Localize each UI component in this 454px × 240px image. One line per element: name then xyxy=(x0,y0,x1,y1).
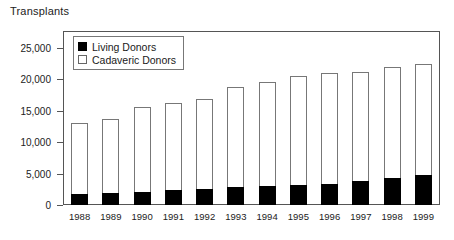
bar-segment-living xyxy=(415,175,432,205)
legend-label: Cadaveric Donors xyxy=(92,54,176,66)
x-tick-label: 1989 xyxy=(100,211,121,222)
bar-group xyxy=(102,119,119,205)
bar-group xyxy=(196,99,213,205)
y-tick-label: 25,000 xyxy=(20,42,51,53)
legend-label: Living Donors xyxy=(92,41,156,53)
bar-group xyxy=(415,64,432,205)
legend-item: Living Donors xyxy=(78,40,176,53)
x-tick-label: 1996 xyxy=(319,211,340,222)
bar-segment-living xyxy=(196,189,213,205)
y-tick-label: 15,000 xyxy=(20,105,51,116)
bar-segment-living xyxy=(290,185,307,205)
x-axis: 1988198919901991199219931994199519961997… xyxy=(63,209,440,229)
bar-segment-living xyxy=(71,194,88,205)
bar-group xyxy=(259,82,276,205)
bar-segment-living xyxy=(321,184,338,205)
y-axis: 05,00010,00015,00020,00025,000 xyxy=(0,0,63,240)
transplants-bar-chart: Transplants 05,00010,00015,00020,00025,0… xyxy=(0,0,454,240)
bar-group xyxy=(134,107,151,205)
y-tick-label: 10,000 xyxy=(20,137,51,148)
x-tick-label: 1997 xyxy=(350,211,371,222)
bar-segment-living xyxy=(165,190,182,205)
x-tick-label: 1998 xyxy=(382,211,403,222)
bar-segment-living xyxy=(227,187,244,205)
bar-group xyxy=(384,67,401,205)
x-tick-label: 1993 xyxy=(225,211,246,222)
bar-group xyxy=(321,73,338,205)
bar-group xyxy=(227,87,244,205)
x-tick-label: 1995 xyxy=(288,211,309,222)
chart-legend: Living DonorsCadaveric Donors xyxy=(73,36,184,70)
bar-group xyxy=(165,103,182,205)
x-tick-label: 1994 xyxy=(257,211,278,222)
bar-group xyxy=(71,123,88,205)
y-tick-label: 0 xyxy=(45,200,51,211)
bar-group xyxy=(290,76,307,205)
bar-segment-living xyxy=(102,193,119,205)
bar-segment-living xyxy=(134,192,151,205)
y-tick-label: 20,000 xyxy=(20,74,51,85)
x-tick-label: 1991 xyxy=(163,211,184,222)
bar-segment-living xyxy=(352,181,369,205)
x-tick-label: 1988 xyxy=(69,211,90,222)
y-tick-label: 5,000 xyxy=(26,168,51,179)
legend-item: Cadaveric Donors xyxy=(78,53,176,66)
bar-group xyxy=(352,72,369,205)
bar-segment-living xyxy=(384,178,401,205)
bar-segment-cadaveric xyxy=(134,107,151,205)
hollow-square-icon xyxy=(78,55,87,64)
bar-segment-living xyxy=(259,186,276,205)
x-tick-label: 1990 xyxy=(132,211,153,222)
bar-segment-cadaveric xyxy=(71,123,88,205)
x-tick-label: 1992 xyxy=(194,211,215,222)
x-tick-label: 1999 xyxy=(413,211,434,222)
y-tick-mark xyxy=(57,205,63,206)
filled-square-icon xyxy=(78,42,87,51)
